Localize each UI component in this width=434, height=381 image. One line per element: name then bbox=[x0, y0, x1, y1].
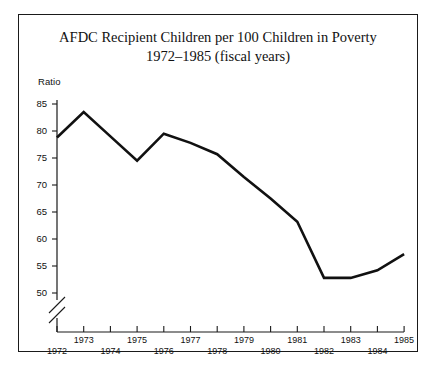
y-tick-marks bbox=[52, 104, 57, 293]
plot-area: 85 80 75 70 65 60 55 50 1973 1975 1977 bbox=[0, 0, 434, 381]
x-tick-label-1983: 1983 bbox=[341, 335, 361, 345]
y-tick-label-85: 85 bbox=[36, 98, 47, 109]
chart-figure: AFDC Recipient Children per 100 Children… bbox=[0, 0, 434, 381]
x-tick-label-1974: 1974 bbox=[100, 346, 120, 356]
x-tick-label-1978: 1978 bbox=[207, 346, 227, 356]
y-tick-label-50: 50 bbox=[36, 287, 47, 298]
y-tick-label-60: 60 bbox=[36, 233, 47, 244]
x-tick-label-1977: 1977 bbox=[180, 335, 200, 345]
x-tick-label-1984: 1984 bbox=[367, 346, 387, 356]
x-tick-label-1982: 1982 bbox=[314, 346, 334, 356]
y-tick-label-75: 75 bbox=[36, 152, 47, 163]
y-tick-label-65: 65 bbox=[36, 206, 47, 217]
y-tick-label-80: 80 bbox=[36, 125, 47, 136]
x-tick-label-1985: 1985 bbox=[394, 335, 414, 345]
y-tick-label-55: 55 bbox=[36, 260, 47, 271]
x-tick-label-1981: 1981 bbox=[287, 335, 307, 345]
x-tick-label-1980: 1980 bbox=[261, 346, 281, 356]
x-tick-label-1973: 1973 bbox=[74, 335, 94, 345]
x-tick-label-1979: 1979 bbox=[234, 335, 254, 345]
x-tick-label-1972: 1972 bbox=[47, 346, 67, 356]
x-tick-marks bbox=[57, 326, 404, 332]
data-series-line bbox=[57, 112, 404, 278]
y-tick-label-70: 70 bbox=[36, 179, 47, 190]
x-tick-label-1975: 1975 bbox=[127, 335, 147, 345]
x-tick-label-1976: 1976 bbox=[154, 346, 174, 356]
